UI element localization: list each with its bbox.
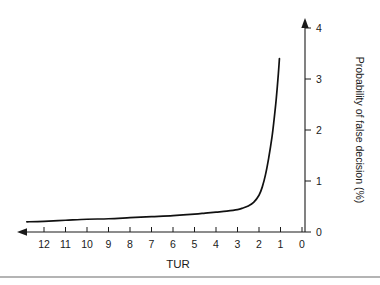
x-tick-label: 12 <box>38 238 50 250</box>
x-axis-arrow-left-icon <box>17 228 27 236</box>
y-tick-label: 1 <box>316 175 322 187</box>
y-axis-arrow-up-icon <box>301 18 308 28</box>
x-tick-label: 8 <box>127 238 133 250</box>
x-axis <box>17 228 305 236</box>
y-axis-tick-labels: 0 1 2 3 4 <box>316 22 322 238</box>
y-axis <box>301 18 308 232</box>
x-axis-ticks <box>44 227 302 232</box>
x-tick-label: 11 <box>60 238 71 250</box>
x-tick-label: 4 <box>213 238 219 250</box>
x-tick-label: 9 <box>106 238 112 250</box>
x-tick-label: 10 <box>81 238 93 250</box>
chart-figure: 12 11 10 9 8 7 6 5 4 3 2 1 0 TUR <box>0 0 380 285</box>
x-tick-label: 7 <box>149 238 155 250</box>
y-tick-label: 4 <box>316 22 322 34</box>
x-axis-tick-labels: 12 11 10 9 8 7 6 5 4 3 2 1 0 <box>38 238 305 250</box>
chart-svg: 12 11 10 9 8 7 6 5 4 3 2 1 0 TUR <box>0 0 380 285</box>
x-tick-label: 6 <box>170 238 176 250</box>
y-tick-label: 3 <box>316 73 322 85</box>
y-tick-label: 0 <box>316 226 322 238</box>
y-axis-title: Probability of false decision (%) <box>354 57 366 203</box>
data-series-line <box>27 59 280 222</box>
x-tick-label: 3 <box>235 238 241 250</box>
x-tick-label: 1 <box>278 238 284 250</box>
y-tick-label: 2 <box>316 124 322 136</box>
x-tick-label: 5 <box>192 238 198 250</box>
x-tick-label: 0 <box>299 238 305 250</box>
y-axis-ticks <box>305 28 311 232</box>
x-tick-label: 2 <box>256 238 262 250</box>
x-axis-title: TUR <box>166 258 190 270</box>
